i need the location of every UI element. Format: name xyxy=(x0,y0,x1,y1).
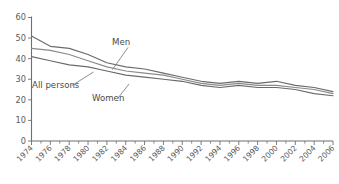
y-tick-label-40: 40 xyxy=(16,54,26,64)
y-tick-label-10: 10 xyxy=(16,115,26,125)
y-tick-label-50: 50 xyxy=(16,33,26,43)
x-tick-label-1986: 1986 xyxy=(128,143,148,163)
x-tick-label-1994: 1994 xyxy=(203,143,223,163)
x-tick-label-2006: 2006 xyxy=(316,143,336,163)
x-tick-label-1988: 1988 xyxy=(147,143,167,163)
x-tick-label-2000: 2000 xyxy=(260,143,280,163)
series-label-men: Men xyxy=(112,37,130,47)
x-tick-label-1982: 1982 xyxy=(90,143,110,163)
x-tick-label-1996: 1996 xyxy=(222,143,242,163)
series-label-women: Women xyxy=(92,93,124,103)
x-axis: 1974197619781980198219841986198819901992… xyxy=(15,141,337,164)
y-tick-label-0: 0 xyxy=(21,136,26,146)
chart-canvas: 0102030405060 19741976197819801982198419… xyxy=(0,0,339,184)
x-tick-label-1974: 1974 xyxy=(15,143,35,163)
y-tick-label-60: 60 xyxy=(16,12,26,22)
y-axis: 0102030405060 xyxy=(16,12,32,146)
y-tick-label-20: 20 xyxy=(16,95,26,105)
x-tick-label-1978: 1978 xyxy=(53,143,73,163)
x-tick-label-1976: 1976 xyxy=(34,143,54,163)
line-chart-smoking-prevalence: 0102030405060 19741976197819801982198419… xyxy=(0,0,339,184)
series-label-all-persons: All persons xyxy=(32,80,80,90)
x-tick-label-1984: 1984 xyxy=(109,143,129,163)
x-tick-label-1980: 1980 xyxy=(71,143,91,163)
x-tick-label-1990: 1990 xyxy=(166,143,186,163)
y-tick-label-30: 30 xyxy=(16,74,26,84)
x-tick-label-2002: 2002 xyxy=(279,143,299,163)
series-annotations: MenAll personsWomen xyxy=(32,37,130,103)
x-tick-label-2004: 2004 xyxy=(298,143,318,163)
x-tick-label-1992: 1992 xyxy=(184,143,204,163)
x-tick-label-1998: 1998 xyxy=(241,143,261,163)
